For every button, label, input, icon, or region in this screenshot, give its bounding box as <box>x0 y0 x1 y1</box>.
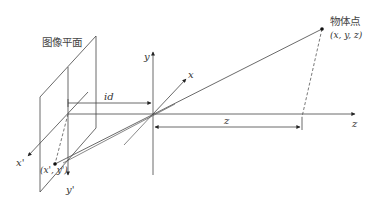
projection-ray <box>55 29 322 164</box>
object-drop-line <box>302 29 322 117</box>
x-axis-label: x <box>188 69 194 80</box>
image-plane-label: 图像平面 <box>42 36 82 48</box>
x-axis <box>153 79 186 114</box>
ray-second <box>63 104 175 163</box>
object-point <box>320 27 324 31</box>
z-axis-label: z <box>351 118 358 129</box>
id-dimension-label: id <box>104 91 114 102</box>
z-dimension-label: z <box>223 115 230 126</box>
object-point-coords: (x, y, z) <box>330 30 363 40</box>
x-axis-tail <box>124 114 153 145</box>
y-axis-label: y <box>143 51 150 62</box>
x-prime-axis-label: x' <box>16 157 24 168</box>
x-prime-axis <box>28 92 88 156</box>
y-prime-axis-label: y' <box>65 184 74 195</box>
object-point-label: 物体点 <box>330 15 360 27</box>
image-point-line <box>55 114 68 164</box>
image-point-coords: (x', y') <box>40 165 68 175</box>
projection-diagram: 图像平面 物体点 (x, y, z) (x', y') y x z x' y' … <box>0 0 371 207</box>
